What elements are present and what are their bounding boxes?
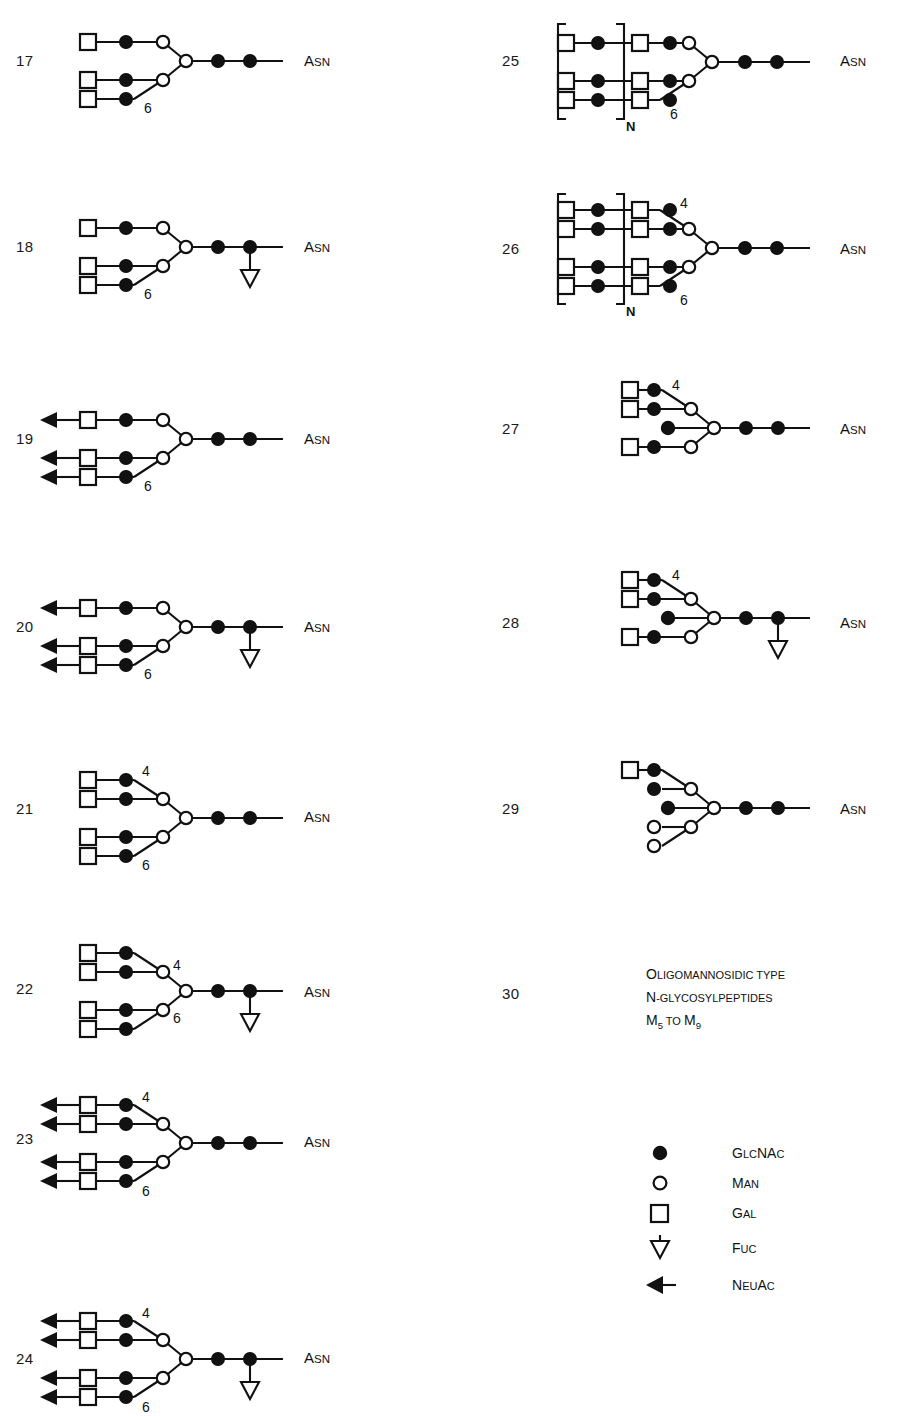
residue-glcnac	[648, 384, 661, 397]
text-line-3: M5 TO M9	[646, 1009, 785, 1037]
residue-glcnac-bisecting	[661, 801, 674, 814]
residue-gal	[80, 772, 96, 788]
structure-24: 4 6	[40, 1304, 310, 1416]
residue-man	[157, 602, 169, 614]
residue-glcnac	[771, 242, 784, 255]
residue-man	[683, 223, 695, 235]
residue-man	[157, 74, 169, 86]
residue-glcnac	[592, 94, 605, 107]
residue-glcnac	[648, 593, 661, 606]
residue-neuac	[40, 657, 57, 673]
structure-20: 6	[40, 584, 310, 684]
residue-man	[157, 222, 169, 234]
linkage-label-6: 6	[144, 478, 152, 494]
residue-glcnac	[120, 1372, 133, 1385]
residue-glcnac	[120, 1175, 133, 1188]
linkage-label-4: 4	[672, 377, 680, 393]
residue-glcnac	[120, 1023, 133, 1036]
residue-glcnac	[664, 223, 677, 236]
legend-symbols	[646, 1140, 686, 1300]
residue-glcnac	[664, 94, 677, 107]
asn-label-29: ASN	[840, 800, 866, 817]
residue-glcnac	[120, 471, 133, 484]
residue-glcnac	[120, 831, 133, 844]
residue-glcnac	[120, 279, 133, 292]
glycan-svg-29	[620, 752, 860, 872]
structure-number-30: 30	[502, 985, 519, 1002]
residue-man	[157, 36, 169, 48]
structure-number-19: 19	[16, 430, 33, 447]
residue-glcnac	[120, 774, 133, 787]
residue-glcnac	[664, 280, 677, 293]
residue-glcnac	[212, 55, 225, 68]
residue-neuac	[40, 1370, 57, 1386]
structure-28: 4	[620, 566, 860, 686]
residue-gal	[558, 35, 574, 51]
glycan-svg-18: 6	[78, 204, 308, 304]
structure-26: N 4 6	[540, 188, 850, 318]
residue-glcnac	[212, 1353, 225, 1366]
residue-gal	[80, 1154, 96, 1170]
legend-open-circle-icon	[654, 1177, 667, 1190]
residue-man-core	[180, 985, 192, 997]
residue-gal	[632, 202, 648, 218]
residue-glcnac	[648, 783, 661, 796]
residue-glcnac	[120, 452, 133, 465]
residue-gal	[80, 258, 96, 274]
residue-man-core	[180, 812, 192, 824]
linkage-label-6: 6	[144, 100, 152, 116]
residue-gal	[80, 638, 96, 654]
residue-glcnac	[244, 812, 257, 825]
residue-gal	[622, 401, 638, 417]
residue-glcnac	[664, 261, 677, 274]
linkage-label-6: 6	[680, 292, 688, 308]
residue-man	[685, 403, 697, 415]
residue-glcnac	[648, 631, 661, 644]
legend-filled-circle-icon	[653, 1146, 666, 1159]
residue-neuac	[40, 1389, 57, 1405]
residue-glcnac	[120, 966, 133, 979]
glycan-svg-23: 4 6	[40, 1088, 310, 1208]
residue-glcnac	[120, 414, 133, 427]
residue-gal	[80, 945, 96, 961]
legend: GLCNAC MAN GAL FUC NEUAC	[646, 1140, 686, 1300]
residue-glcnac	[592, 37, 605, 50]
residue-glcnac	[212, 241, 225, 254]
structure-22: 4 6	[78, 938, 308, 1058]
repeat-bracket-right	[616, 24, 624, 119]
residue-man	[683, 261, 695, 273]
residue-man	[157, 1156, 169, 1168]
residue-gal	[80, 848, 96, 864]
residue-man	[683, 37, 695, 49]
residue-glcnac	[740, 422, 753, 435]
residue-gal	[632, 221, 648, 237]
residue-glcnac	[739, 56, 752, 69]
residue-glcnac	[772, 612, 785, 625]
residue-glcnac	[120, 1391, 133, 1404]
residue-glcnac	[592, 261, 605, 274]
glycan-svg-27: 4	[620, 376, 860, 486]
residue-gal	[80, 657, 96, 673]
asn-label-24: ASN	[304, 1349, 330, 1366]
residue-glcnac	[664, 204, 677, 217]
residue-glcnac	[740, 802, 753, 815]
structure-number-25: 25	[502, 52, 519, 69]
residue-gal	[558, 278, 574, 294]
residue-glcnac	[592, 204, 605, 217]
asn-label-23: ASN	[304, 1133, 330, 1150]
residue-glcnac	[120, 260, 133, 273]
linkage-label-6: 6	[142, 1399, 150, 1415]
residue-man-core	[708, 802, 720, 814]
residue-glcnac	[120, 74, 133, 87]
residue-gal	[80, 412, 96, 428]
residue-glcnac	[120, 659, 133, 672]
residue-gal	[622, 762, 638, 778]
residue-man-core	[180, 621, 192, 633]
residue-neuac	[40, 1313, 57, 1329]
residue-gal	[80, 1021, 96, 1037]
residue-glcnac	[120, 640, 133, 653]
residue-glcnac	[120, 1315, 133, 1328]
residue-man	[683, 75, 695, 87]
residue-gal	[80, 1173, 96, 1189]
